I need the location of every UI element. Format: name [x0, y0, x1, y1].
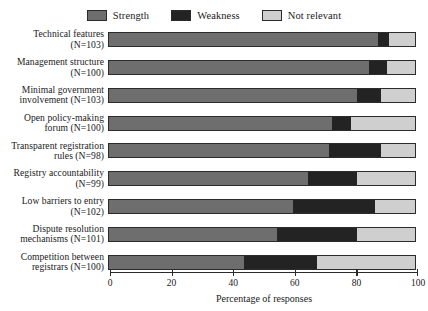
stacked-bar [108, 227, 416, 242]
category-label: Minimal government involvement (N=103) [0, 85, 108, 106]
bar-segment-weakness [357, 89, 381, 102]
x-axis-tick-label: 0 [108, 278, 113, 289]
bar-segment-strength [109, 256, 244, 269]
x-axis-tick [110, 269, 111, 276]
legend-label-not-relevant: Not relevant [288, 10, 341, 21]
category-label: Registry accountability (N=99) [0, 168, 108, 189]
bar-segment-weakness [329, 144, 381, 157]
legend-swatch-not-relevant [262, 10, 282, 21]
stacked-bar [108, 88, 416, 103]
bar-segment-weakness [277, 228, 357, 241]
bar-segment-strength [109, 228, 277, 241]
category-label: Competition between registrars (N=100) [0, 252, 108, 273]
bar-segment-weakness [332, 117, 350, 130]
bar-segment-strength [109, 172, 308, 185]
category-label: Transparent registration rules (N=98) [0, 141, 108, 162]
stacked-bar [108, 255, 416, 270]
bar-segment-not-relevant [351, 117, 415, 130]
bar-segment-strength [109, 89, 357, 102]
stacked-bar [108, 171, 416, 186]
x-axis-title: Percentage of responses [110, 293, 418, 305]
bar-segment-strength [109, 117, 332, 130]
x-axis-line [110, 272, 418, 273]
legend-swatch-weakness [171, 10, 191, 21]
bar-segment-not-relevant [375, 200, 415, 213]
category-label: Management structure (N=100) [0, 57, 108, 78]
x-axis-tick [356, 269, 357, 276]
bar-segment-not-relevant [389, 33, 415, 46]
bar-segment-weakness [293, 200, 376, 213]
chart-legend: Strength Weakness Not relevant [0, 6, 428, 24]
bar-segment-weakness [244, 256, 317, 269]
chart-row: Registry accountability (N=99) [0, 165, 428, 193]
stacked-bar [108, 32, 416, 47]
x-axis-tick [295, 269, 296, 276]
bar-segment-not-relevant [317, 256, 415, 269]
x-axis-tick [233, 269, 234, 276]
category-label: Dispute resolution mechanisms (N=101) [0, 224, 108, 245]
chart-row: Management structure (N=100) [0, 54, 428, 82]
chart-row: Low barriers to entry (N=102) [0, 193, 428, 221]
legend-item-not-relevant: Not relevant [262, 10, 341, 21]
legend-item-weakness: Weakness [171, 10, 240, 21]
stacked-bar [108, 60, 416, 75]
bar-segment-not-relevant [381, 89, 415, 102]
bar-segment-not-relevant [387, 61, 415, 74]
x-axis-tick-label: 80 [352, 278, 362, 289]
x-axis-tick-label: 40 [228, 278, 238, 289]
category-label: Open policy-making forum (N=100) [0, 113, 108, 134]
stacked-bar [108, 116, 416, 131]
legend-swatch-strength [87, 10, 107, 21]
chart-row: Transparent registration rules (N=98) [0, 137, 428, 165]
category-label: Technical features (N=103) [0, 29, 108, 50]
bar-segment-strength [109, 61, 369, 74]
category-label: Low barriers to entry (N=102) [0, 196, 108, 217]
stacked-bar [108, 143, 416, 158]
bar-segment-weakness [308, 172, 357, 185]
stacked-bar [108, 199, 416, 214]
bar-segment-strength [109, 200, 293, 213]
x-axis-tick [417, 269, 418, 276]
bar-segment-strength [109, 144, 329, 157]
x-axis-tick-label: 100 [411, 278, 425, 289]
bar-segment-not-relevant [381, 144, 415, 157]
bar-segment-not-relevant [357, 228, 415, 241]
chart-row: Open policy-making forum (N=100) [0, 109, 428, 137]
chart-row: Technical features (N=103) [0, 26, 428, 54]
chart-row: Dispute resolution mechanisms (N=101) [0, 220, 428, 248]
x-axis-tick-label: 20 [167, 278, 177, 289]
chart-row: Minimal government involvement (N=103) [0, 82, 428, 110]
bar-segment-strength [109, 33, 378, 46]
bar-segment-not-relevant [357, 172, 415, 185]
x-axis-tick [172, 269, 173, 276]
legend-item-strength: Strength [87, 10, 149, 21]
plot-area: Technical features (N=103)Management str… [0, 26, 428, 276]
legend-label-weakness: Weakness [197, 10, 240, 21]
stacked-bar-chart: Strength Weakness Not relevant Technical… [0, 0, 428, 311]
legend-label-strength: Strength [113, 10, 149, 21]
bar-segment-weakness [378, 33, 389, 46]
x-axis: Percentage of responses 020406080100 [110, 272, 418, 311]
x-axis-tick-label: 60 [290, 278, 300, 289]
bar-segment-weakness [369, 61, 387, 74]
